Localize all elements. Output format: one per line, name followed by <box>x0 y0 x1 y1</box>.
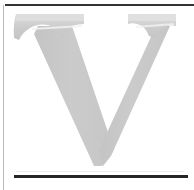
bottom-divider-rule <box>14 175 188 178</box>
top-border-rule <box>5 4 194 6</box>
ghost-rule-artifact <box>16 171 184 172</box>
dropcap-letter-v-icon <box>10 10 176 168</box>
left-margin-rule <box>3 5 4 190</box>
page-canvas <box>0 0 194 190</box>
